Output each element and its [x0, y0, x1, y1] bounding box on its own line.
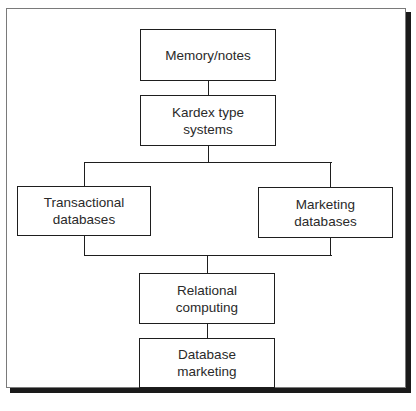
node-label: Transactional databases	[44, 194, 125, 228]
node-marketing-databases: Marketing databases	[258, 187, 393, 238]
connector-merge-relational	[207, 255, 209, 273]
connector-split-transactional	[84, 162, 86, 186]
node-label: Database marketing	[177, 346, 236, 380]
connector-kardex-split	[208, 145, 210, 162]
node-label: Marketing databases	[294, 196, 356, 230]
node-kardex-type-systems: Kardex type systems	[140, 95, 276, 146]
connector-relational-dbmarketing	[207, 323, 209, 338]
connector-memory-kardex	[208, 80, 210, 95]
node-relational-computing: Relational computing	[139, 273, 275, 324]
connector-marketing-merge	[330, 237, 332, 256]
node-label: Memory/notes	[165, 47, 251, 64]
node-label: Relational computing	[176, 282, 238, 316]
node-database-marketing: Database marketing	[139, 338, 275, 388]
node-memory-notes: Memory/notes	[140, 29, 276, 81]
connector-split-marketing	[330, 162, 332, 187]
node-transactional-databases: Transactional databases	[17, 186, 151, 236]
node-label: Kardex type systems	[172, 104, 244, 138]
connector-split-horizontal	[84, 162, 332, 164]
connector-transactional-merge	[84, 235, 86, 256]
